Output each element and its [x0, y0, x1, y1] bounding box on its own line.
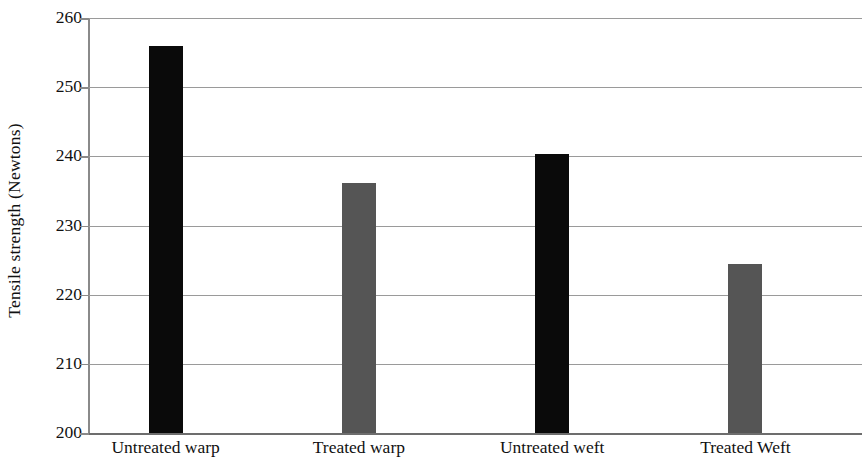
- y-axis-tick-label: 230: [26, 217, 82, 235]
- y-axis-tick-mark: [80, 364, 89, 366]
- gridline: [89, 156, 862, 157]
- y-axis-tick-label: 250: [26, 78, 82, 96]
- y-axis-tick-label: 260: [26, 9, 82, 27]
- gridline: [89, 433, 862, 435]
- x-axis-category-label: Untreated weft: [500, 437, 604, 458]
- y-axis-tick-mark: [80, 87, 89, 89]
- x-axis-category-label: Untreated warp: [111, 437, 219, 458]
- gridline: [89, 87, 862, 88]
- y-axis-tick-labels: 200210220230240250260: [22, 0, 82, 462]
- gridline: [89, 226, 862, 227]
- y-axis-tick-mark: [80, 226, 89, 228]
- y-axis-tick-label: 220: [26, 286, 82, 304]
- y-axis-tick-mark: [80, 295, 89, 297]
- plot-area: [89, 18, 862, 433]
- x-axis-category-label: Treated warp: [313, 437, 405, 458]
- gridline: [89, 18, 862, 19]
- y-axis-tick-label: 200: [26, 424, 82, 442]
- bar: [149, 46, 183, 433]
- y-axis-tick-label: 240: [26, 147, 82, 165]
- y-axis-tick-mark: [80, 18, 89, 20]
- bar-chart: Tensile strength (Newtons) 2002102202302…: [0, 0, 862, 462]
- bar: [342, 183, 376, 433]
- bar: [535, 154, 569, 433]
- bar: [728, 264, 762, 433]
- x-axis-category-label: Treated Weft: [700, 437, 790, 458]
- y-axis-tick-mark: [80, 433, 89, 435]
- y-axis-tick-mark: [80, 156, 89, 158]
- x-axis-category-labels: Untreated warpTreated warpUntreated weft…: [89, 437, 862, 462]
- y-axis-tick-label: 210: [26, 355, 82, 373]
